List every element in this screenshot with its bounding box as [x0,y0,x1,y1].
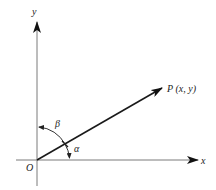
origin-label: O [26,162,33,173]
x-axis-label: x [200,155,206,166]
vector-diagram: y x O P (x, y) β α [0,0,216,190]
y-axis-label: y [31,6,37,17]
alpha-label: α [74,143,80,154]
point-label: P (x, y) [166,83,197,95]
beta-label: β [54,118,60,129]
beta-angle-arc [39,127,65,144]
